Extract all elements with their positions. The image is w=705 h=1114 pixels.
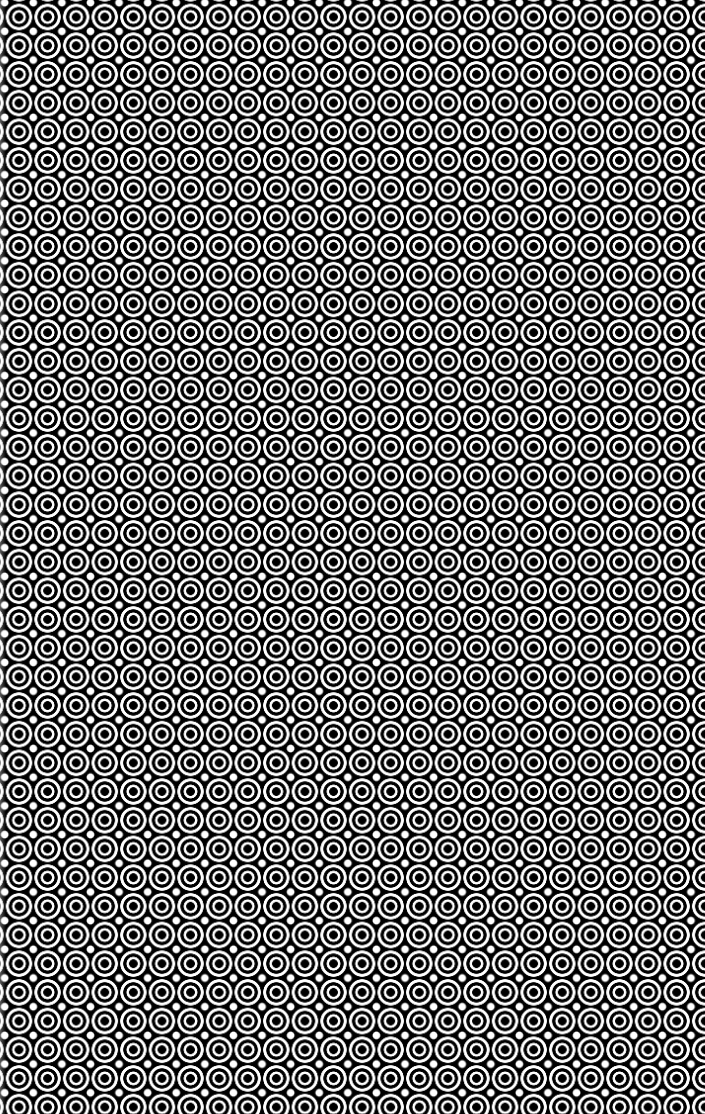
left-edge-blur (0, 0, 6, 1114)
